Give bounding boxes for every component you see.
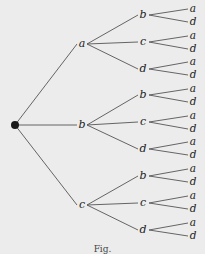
leaf-node-a: a (189, 110, 197, 121)
tree-edge (149, 62, 188, 69)
leaf-node-d: d (189, 123, 198, 134)
tree-edge (87, 205, 138, 230)
node-level2-d: d (138, 224, 147, 235)
tree-edge (149, 230, 188, 236)
leaf-node-a: a (189, 3, 197, 14)
tree-edge (87, 15, 138, 44)
tree-edge (149, 122, 188, 129)
tree-edge (149, 9, 188, 15)
node-level1-a: a (78, 38, 87, 49)
tree-edge (87, 203, 138, 205)
leaf-node-d: d (189, 96, 198, 107)
node-level2-c: c (139, 36, 147, 47)
tree-edge (149, 176, 188, 182)
node-level1-b: b (77, 119, 86, 130)
tree-edge (87, 125, 138, 149)
node-level2-d: d (138, 63, 147, 74)
leaf-node-a: a (189, 30, 197, 40)
tree-edge (149, 196, 188, 203)
tree-edge (87, 122, 138, 125)
tree-edge (149, 142, 188, 149)
tree-edge (149, 36, 188, 42)
tree-edge (149, 223, 188, 230)
tree-edge (87, 176, 138, 205)
leaf-node-a: a (189, 136, 197, 147)
leaf-node-d: d (189, 203, 198, 214)
leaf-node-a: a (189, 163, 197, 174)
leaf-node-a: a (189, 83, 197, 94)
leaf-node-d: d (189, 69, 198, 80)
figure-caption: Fig. (0, 244, 205, 254)
leaf-node-a: a (189, 217, 197, 228)
leaf-node-d: d (189, 230, 198, 241)
leaf-node-d: d (189, 43, 198, 54)
node-level2-b: b (138, 170, 147, 181)
tree-edge (149, 15, 188, 22)
tree-edge (149, 203, 188, 209)
tree-edge (149, 169, 188, 176)
tree-edge (149, 42, 188, 49)
node-level1-c: c (78, 199, 86, 210)
leaf-node-d: d (189, 16, 198, 27)
node-level2-c: c (139, 116, 147, 127)
leaf-node-a: a (189, 190, 197, 201)
tree-edge (87, 42, 138, 44)
leaf-node-d: d (189, 176, 198, 187)
tree-edge (149, 149, 188, 155)
node-level2-b: b (138, 89, 147, 100)
node-level2-b: b (138, 9, 147, 20)
node-level2-d: d (138, 143, 147, 154)
tree-edge (149, 116, 188, 122)
tree-edge (149, 69, 188, 75)
tree-edge (149, 89, 188, 95)
tree-edge (87, 95, 138, 125)
tree-edge (15, 44, 77, 125)
leaf-node-d: d (189, 149, 198, 160)
root-node-dot (11, 121, 19, 129)
tree-edge (15, 125, 77, 205)
node-level2-c: c (139, 197, 147, 208)
tree-edge (149, 95, 188, 102)
tree-edge (87, 44, 138, 69)
leaf-node-a: a (189, 56, 197, 67)
